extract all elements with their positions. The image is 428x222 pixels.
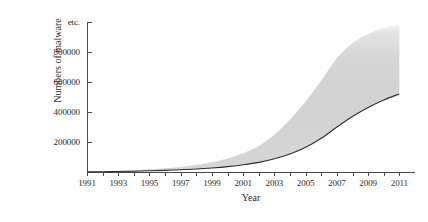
x-tick-label: 2001 [234,178,252,188]
x-tick-mark [259,172,260,176]
x-tick-mark [196,172,197,176]
x-tick-label: 1999 [203,178,221,188]
x-axis-line [87,172,415,173]
x-tick-mark [243,172,244,176]
x-tick-mark [103,172,104,176]
x-tick-mark [384,172,385,176]
x-tick-mark [149,172,150,176]
y-tick-label: 800000 [54,47,80,57]
y-tick-mark [88,112,92,113]
y-tick-mark [88,142,92,143]
x-tick-mark [212,172,213,176]
x-tick-mark [181,172,182,176]
x-tick-label: 1995 [141,178,159,188]
x-tick-mark [87,172,88,176]
x-tick-mark [274,172,275,176]
y-tick-mark [88,22,92,23]
malware-growth-band [87,22,415,172]
x-tick-label: 2005 [297,178,315,188]
x-tick-mark [228,172,229,176]
y-tick-mark [88,82,92,83]
x-tick-mark [134,172,135,176]
x-tick-label: 2009 [359,178,377,188]
x-tick-label: 2003 [266,178,284,188]
x-tick-mark [353,172,354,176]
x-tick-mark [118,172,119,176]
y-tick-label: etc. [68,17,80,27]
x-tick-label: 1997 [172,178,190,188]
chart-figure: Numbers of malware Year [0,0,428,222]
x-tick-mark [337,172,338,176]
plot-area: 200000400000600000800000etc. 19911993199… [87,22,415,172]
y-tick-label: 600000 [54,77,80,87]
x-tick-mark [290,172,291,176]
x-axis-title: Year [87,192,415,203]
x-tick-mark [165,172,166,176]
x-tick-label: 1991 [78,178,96,188]
x-tick-mark [399,172,400,176]
x-tick-mark [321,172,322,176]
x-tick-mark [306,172,307,176]
x-tick-label: 2011 [391,178,408,188]
y-tick-label: 200000 [54,137,80,147]
x-tick-label: 2007 [328,178,346,188]
y-tick-label: 400000 [54,107,80,117]
x-tick-mark [368,172,369,176]
y-tick-mark [88,52,92,53]
x-tick-label: 1993 [109,178,127,188]
